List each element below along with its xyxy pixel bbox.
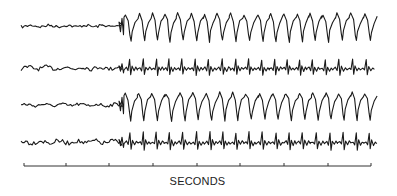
time-axis xyxy=(24,163,371,166)
eeg-trace-channel-2 xyxy=(21,59,374,76)
eeg-trace-channel-3 xyxy=(21,92,377,122)
eeg-trace-channel-1 xyxy=(21,13,377,43)
x-axis-label-text: SECONDS xyxy=(170,175,226,187)
eeg-figure xyxy=(0,0,397,196)
x-axis-label: SECONDS xyxy=(0,175,397,187)
eeg-traces xyxy=(21,13,377,151)
eeg-trace-channel-4 xyxy=(21,132,377,151)
